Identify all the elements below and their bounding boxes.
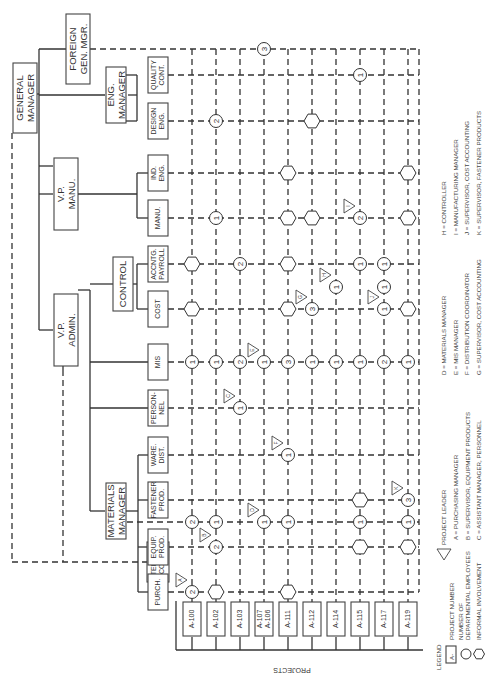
leader-key-g: G = SUPERVISOR, COST ACCOUNTING xyxy=(475,259,482,375)
informal-involvement-node xyxy=(352,493,368,507)
project-box-label: A-102 xyxy=(212,610,219,629)
employee-count: 1 xyxy=(380,306,389,311)
leader-letter: D xyxy=(249,508,255,512)
project-box: A-114 xyxy=(327,602,345,636)
project-leader-marker: E xyxy=(248,343,259,357)
informal-involvement-node xyxy=(280,302,296,316)
hexagon-icon xyxy=(280,585,296,599)
control-box: CONTROL xyxy=(113,257,133,311)
employee-count: 1 xyxy=(380,261,389,266)
project-leader-marker: H xyxy=(320,268,331,282)
department-box-quality: QUALITYCONT. xyxy=(148,57,168,93)
department-box-ware-label: WARE. xyxy=(150,444,157,467)
hexagon-icon xyxy=(184,257,200,271)
project-leader-marker: B xyxy=(200,528,211,542)
project-box-label: A-114 xyxy=(332,610,339,628)
project-leader-marker: G xyxy=(296,290,307,304)
hexagon-icon xyxy=(400,166,416,180)
hexagon-icon xyxy=(304,211,320,225)
hexagon-icon xyxy=(352,493,368,507)
project-box-label: A-106 xyxy=(264,610,271,629)
department-box-fastener-label: PROD. xyxy=(158,489,165,511)
employee-count: 3 xyxy=(284,359,293,364)
eng-manager-box-label: MANAGER xyxy=(116,71,127,119)
hexagon-icon xyxy=(474,649,485,659)
department-box-personnel-label: PERSON- xyxy=(150,391,157,424)
project-box: A-111 xyxy=(279,602,297,636)
employee-count: 2 xyxy=(188,519,197,524)
leader-key-k: K = SUPERVISOR, FASTENER PRODUCTS xyxy=(475,111,482,235)
employee-count-node: 3 xyxy=(402,494,415,507)
vp-manu-box-label: V.P. xyxy=(55,186,66,202)
department-box-ind-label: ENG. xyxy=(158,164,165,181)
hexagon-icon xyxy=(304,114,320,128)
department-box-quality-label: CONT. xyxy=(158,64,165,85)
vp-manu-box-label: MANU. xyxy=(66,179,77,210)
general-manager-box-label: GENERAL xyxy=(14,75,25,120)
informal-involvement-node xyxy=(400,211,416,225)
project-box-label: A-119 xyxy=(404,610,411,628)
employee-count-node: 1 xyxy=(210,356,223,369)
employee-count: 1 xyxy=(308,359,317,364)
circle-icon xyxy=(461,649,471,659)
department-box-design-label: ENG. xyxy=(158,112,165,129)
employee-count-node: 1 xyxy=(378,258,391,271)
department-box-cost-label: COST xyxy=(154,299,161,319)
employee-count-node: 2 xyxy=(186,516,199,529)
informal-involvement-node xyxy=(280,166,296,180)
employee-count: 2 xyxy=(212,544,221,549)
project-leader-marker: J xyxy=(368,290,379,304)
project-box: A-112 xyxy=(303,602,321,636)
informal-label: INFORMAL INVOLVEMENT xyxy=(475,562,482,640)
employee-count-node: 1 xyxy=(354,516,367,529)
project-leader-marker: A xyxy=(176,573,187,587)
department-box-design-label: DESIGN xyxy=(150,108,157,135)
employee-count-node: 1 xyxy=(186,356,199,369)
hexagon-icon xyxy=(280,211,296,225)
department-box-fastener-label: FASTENER xyxy=(150,482,157,519)
department-box-ware-label: DIST. xyxy=(158,446,165,463)
informal-involvement-node xyxy=(400,540,416,554)
legend-title: LEGEND xyxy=(435,644,442,670)
project-number-label: PROJECT NUMBER xyxy=(448,582,455,640)
foreign-gen-mgr-box-label: FOREIGN xyxy=(67,27,78,70)
employee-count-node: 1 xyxy=(234,402,247,415)
leader-key-e: E = MIS MANAGER xyxy=(452,319,459,375)
project-box-label: A-115 xyxy=(356,610,363,628)
employee-count: 1 xyxy=(260,359,269,364)
employee-count-node: 2 xyxy=(354,212,367,225)
employee-count: 1 xyxy=(404,519,413,524)
project-box: A-117 xyxy=(375,602,393,636)
hexagon-icon xyxy=(280,257,296,271)
employee-count-node: 1 xyxy=(402,356,415,369)
leader-key-b: B = SUPERVISOR, EQUIPMENT PRODUCTS xyxy=(464,412,471,540)
project-box: A-103 xyxy=(231,602,249,636)
department-box-purch: PURCH. xyxy=(148,574,168,610)
employee-count-node: 1 xyxy=(354,69,367,82)
employee-count-node: 1 xyxy=(306,356,319,369)
informal-involvement-node xyxy=(304,211,320,225)
project-box-label: A-100 xyxy=(188,610,195,629)
leader-letter: I xyxy=(345,205,351,206)
leader-key-c: C = ASSISTANT MANAGER, PERSONNEL xyxy=(475,420,482,540)
employee-count: 3 xyxy=(260,46,269,51)
employee-count-node: 3 xyxy=(306,303,319,316)
employee-count-node: 1 xyxy=(402,516,415,529)
project-leader-marker: F xyxy=(272,436,283,450)
employee-count-node: 1 xyxy=(210,212,223,225)
employee-count-node: 2 xyxy=(234,356,247,369)
materials-manager-box-label: MANAGER xyxy=(116,487,127,535)
hexagon-icon xyxy=(400,211,416,225)
hexagon-icon xyxy=(184,302,200,316)
project-leader-label: PROJECT LEADER xyxy=(440,489,447,545)
hexagon-icon xyxy=(400,302,416,316)
eng-manager-box: ENG.MANAGER xyxy=(105,67,127,123)
employee-count: 1 xyxy=(332,284,341,289)
control-box-label: CONTROL xyxy=(117,261,128,307)
project-box-label: A-107 xyxy=(256,610,263,629)
employee-count-node: 1 xyxy=(282,516,295,529)
informal-involvement-node xyxy=(280,585,296,599)
department-box-equip-label: EQUIP. xyxy=(150,536,158,559)
legend: LEGENDA-PROJECT NUMBERNUMBER OFDEPARTMEN… xyxy=(435,111,485,670)
leader-key-j: J = SUPERVISOR, COST ACCOUNTING xyxy=(463,121,470,235)
